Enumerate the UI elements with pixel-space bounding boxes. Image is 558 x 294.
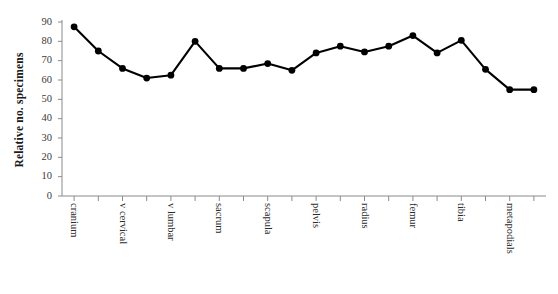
x-axis-tick-label: cranium	[67, 203, 81, 291]
x-axis-tick-label: tibia	[454, 203, 468, 291]
data-point	[337, 43, 344, 50]
y-axis-ticks	[58, 22, 62, 196]
x-axis-tick-label-text: radius	[359, 203, 370, 229]
data-point	[168, 72, 175, 79]
data-point	[410, 32, 417, 39]
data-point	[361, 49, 368, 56]
x-axis-tick-label: sacrum	[212, 203, 226, 291]
x-axis-tick-label-text: v cervical	[117, 203, 128, 244]
data-point	[216, 65, 223, 72]
plot-area	[0, 0, 558, 294]
data-point	[240, 65, 247, 72]
x-axis-tick-label: scapula	[261, 203, 275, 291]
data-point	[385, 43, 392, 50]
data-point	[458, 37, 465, 44]
data-point	[506, 86, 513, 93]
data-point	[143, 75, 150, 82]
data-point-markers	[71, 23, 538, 93]
x-axis-tick-label-text: metapodials	[504, 203, 515, 254]
x-axis-tick-label-text: femur	[408, 203, 419, 228]
axis-lines	[62, 20, 546, 196]
x-axis-tick-label-text: v lumbar	[166, 203, 177, 241]
data-point	[531, 86, 538, 93]
data-point	[482, 66, 489, 73]
data-series-line	[74, 27, 534, 90]
data-point	[289, 67, 296, 74]
line-chart: Relative no. specimens 90807060504030201…	[0, 0, 558, 294]
data-point	[71, 23, 78, 30]
x-axis-tick-label-text: cranium	[69, 203, 80, 237]
x-axis-tick-label-text: tibia	[456, 203, 467, 222]
data-point	[264, 60, 271, 67]
x-axis-tick-label: femur	[406, 203, 420, 291]
data-point	[434, 50, 441, 57]
data-point	[119, 65, 126, 72]
data-point	[192, 38, 199, 45]
x-axis-ticks	[74, 196, 534, 201]
x-axis-tick-label-text: pelvis	[311, 203, 322, 228]
x-axis-tick-label-text: sacrum	[214, 203, 225, 233]
x-axis-tick-label: radius	[358, 203, 372, 291]
x-axis-tick-label: v lumbar	[164, 203, 178, 291]
x-axis-tick-label: pelvis	[309, 203, 323, 291]
x-axis-tick-label-text: scapula	[262, 203, 273, 235]
x-axis-tick-label: v cervical	[116, 203, 130, 291]
data-point	[313, 50, 320, 57]
data-point	[95, 48, 102, 55]
x-axis-tick-label: metapodials	[503, 203, 517, 291]
